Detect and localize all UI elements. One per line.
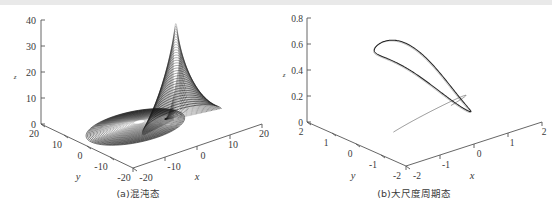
z-tick-label: 0.4 [291, 66, 303, 76]
y-tick-label: 2 [299, 127, 304, 137]
panel-periodic-state: 0.8 0.6 0.4 0.2 0 z 2 1 0 -1 -2 y [276, 0, 552, 210]
y-tick-label: -1 [369, 160, 377, 170]
axis-label-z: z [282, 71, 286, 79]
x-tick-label: 1 [510, 138, 515, 148]
y-tick-label: 10 [52, 139, 62, 150]
y-tick-label: 0 [78, 150, 83, 161]
axis-label-y: y [350, 170, 356, 181]
x-tick-label: 0 [201, 150, 206, 161]
axis-label-z: z [13, 73, 17, 81]
z-tick-label: 0.2 [291, 92, 303, 102]
z-ticks-b [307, 18, 311, 122]
x-tick-label: 2 [542, 127, 547, 137]
z-tick-label: 40 [26, 15, 36, 26]
x-tick-label: 10 [228, 139, 238, 150]
z-tick-label: 30 [26, 41, 36, 52]
axis-label-x: x [469, 170, 475, 181]
y-tick-label: 20 [29, 128, 39, 139]
z-ticks-a [41, 20, 45, 124]
x-tick-label: -20 [139, 172, 152, 183]
plot-chaotic-state: 40 30 20 10 0 z 20 10 0 -10 -20 y [0, 0, 276, 210]
x-tick-label: -1 [442, 160, 450, 170]
axis-label-x: x [194, 171, 200, 182]
z-tick-label: 20 [26, 67, 36, 78]
y-tick-label: 0 [348, 149, 353, 159]
y-tick-label: -20 [117, 172, 130, 183]
x-tick-label: 20 [259, 128, 269, 139]
panel-chaotic-state: 40 30 20 10 0 z 20 10 0 -10 -20 y [0, 0, 276, 210]
x-tick-label: -2 [413, 171, 421, 181]
x-tick-label: 0 [477, 149, 482, 159]
chaotic-attractor-trajectory [86, 24, 222, 146]
axes-lines-b [307, 18, 542, 166]
figure-container: 40 30 20 10 0 z 20 10 0 -10 -20 y [0, 0, 552, 210]
y-tick-label: 1 [324, 138, 329, 148]
periodic-orbit-trajectory [373, 40, 471, 132]
plot-periodic-state: 0.8 0.6 0.4 0.2 0 z 2 1 0 -1 -2 y [276, 0, 552, 210]
z-tick-label: 10 [26, 93, 36, 104]
x-tick-label: -10 [167, 161, 180, 172]
y-tick-label: -2 [393, 171, 401, 181]
panel-caption-b: (b)大尺度周期态 [276, 186, 552, 200]
x-ticks-b [406, 122, 542, 170]
y-tick-label: -10 [94, 161, 107, 172]
z-tick-label: 0.8 [291, 14, 303, 24]
z-tick-label: 0.6 [291, 40, 303, 50]
axis-label-y: y [75, 171, 81, 182]
panel-caption-a: (a)混沌态 [0, 186, 276, 200]
